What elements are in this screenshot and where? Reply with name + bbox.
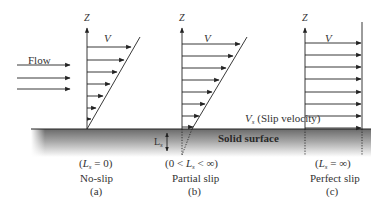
axis-label-b: Z — [179, 13, 185, 23]
panel-b-name: Partial slip — [172, 173, 219, 184]
slip-velocity-text: (Slip velocity) — [257, 112, 320, 124]
panel-a-tag: (a) — [90, 186, 102, 197]
slip-length-label: Ls — [154, 137, 163, 149]
condition-suffix: < ∞) — [195, 157, 218, 169]
panel-c-name: Perfect slip — [310, 173, 360, 184]
solid-surface — [31, 129, 371, 157]
flow-label: Flow — [28, 55, 51, 66]
condition-prefix: (0 < — [165, 157, 186, 169]
panel-a-profile — [87, 28, 140, 129]
axis-label-a: Z — [84, 13, 90, 23]
velocity-label-b: V — [204, 33, 211, 44]
panel-c-tag: (c) — [326, 186, 338, 197]
panel-a-condition: (Ls = 0) — [79, 158, 112, 171]
slip-velocity-label: Vs (Slip velocity) — [245, 113, 320, 126]
panel-a-name: No-slip — [80, 173, 113, 184]
slip-velocity-subscript: s — [252, 118, 255, 126]
axis-label-c: Z — [302, 13, 308, 23]
velocity-label-c: V — [325, 33, 332, 44]
panel-c-condition: (Ls = ∞) — [315, 158, 351, 171]
condition-suffix: = 0) — [92, 157, 113, 169]
slip-velocity-symbol: V — [245, 112, 252, 124]
velocity-label-a: V — [104, 33, 111, 44]
panel-b-condition: (0 < Ls < ∞) — [165, 158, 218, 171]
condition-suffix: = ∞) — [328, 157, 351, 169]
slip-length-subscript: s — [160, 141, 163, 149]
flow-arrows — [17, 65, 70, 89]
surface-label: Solid surface — [218, 133, 279, 144]
panel-b-tag: (b) — [188, 186, 201, 197]
